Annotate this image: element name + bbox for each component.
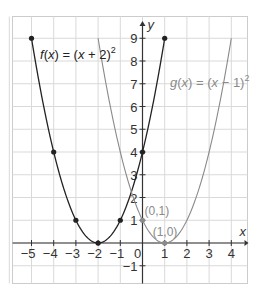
- x-tick-label: 2: [183, 246, 190, 261]
- f-point: [140, 149, 145, 154]
- x-tick-label: −5: [21, 246, 36, 261]
- y-tick-label: 1: [130, 213, 137, 228]
- x-tick-label: 1: [161, 246, 168, 261]
- x-tick-label: 3: [205, 246, 212, 261]
- y-tick-label: 8: [130, 54, 137, 69]
- point-label-0-1: (0,1): [145, 204, 170, 218]
- y-tick-label: 6: [130, 100, 137, 115]
- f-point: [118, 218, 123, 223]
- f-point: [162, 36, 167, 41]
- f-point: [29, 36, 34, 41]
- function-graph: xy −5−4−3−2−101234−1123456789 f(x) = (x …: [0, 0, 259, 298]
- point-label-1-0: (1,0): [153, 225, 178, 239]
- x-tick-label: −4: [43, 246, 58, 261]
- y-tick-label: 5: [130, 122, 137, 137]
- f-point: [96, 240, 101, 245]
- x-tick-label: 4: [228, 246, 235, 261]
- x-axis-label: x: [239, 224, 247, 239]
- g-point: [140, 218, 145, 223]
- x-tick-label: −2: [87, 246, 102, 261]
- y-tick-label: −1: [123, 259, 138, 274]
- f-point: [51, 149, 56, 154]
- f-point: [73, 218, 78, 223]
- y-tick-label: 7: [130, 77, 137, 92]
- g-point: [162, 240, 167, 245]
- y-tick-label: 4: [130, 145, 137, 160]
- y-tick-label: 9: [130, 31, 137, 46]
- g-function-label: g(x) = (x − 1)2: [170, 73, 249, 90]
- x-tick-label: −3: [65, 246, 80, 261]
- f-function-label: f(x) = (x + 2)2: [40, 45, 116, 62]
